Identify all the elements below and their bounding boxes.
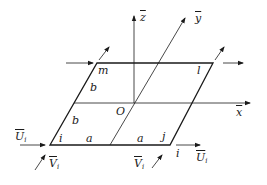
dimension-b-upper: b [90,82,97,93]
y-axis-label-text: y [195,12,201,25]
force-V-left-subscript: i [57,163,59,171]
force-U-left-symbol: U [15,130,24,143]
force-V-bottom-label: Vi [134,158,144,171]
y-axis-label: y [195,13,201,24]
origin-label: O [116,106,125,117]
node-j-label: j [162,131,165,142]
x-axis-label-text: x [236,106,242,119]
y-axis-line [110,18,185,145]
node-i-right-label: i [176,148,180,159]
force-U-right-subscript: i [205,157,207,165]
node-l-label: l [197,65,201,76]
force-U-right-label: Ui [196,152,208,165]
dimension-a-right: a [137,133,144,144]
arrow-top-right-diagonal [215,47,224,60]
arrow-V-bottom [152,155,162,168]
force-V-left-symbol: V [49,157,57,170]
dimension-b-lower: b [72,115,79,126]
dimension-a-left: a [86,133,93,144]
force-U-left-subscript: i [24,136,26,144]
force-V-bottom-subscript: i [142,163,144,171]
node-m-label: m [98,65,108,76]
force-V-bottom-symbol: V [134,157,142,170]
z-axis-label-text: z [140,11,146,24]
force-U-left-label: Ui [15,131,27,144]
z-axis-label: z [140,12,146,23]
x-axis-label: x [236,107,242,118]
node-i-label: i [59,133,63,144]
force-U-right-symbol: U [196,151,205,164]
arrow-V-left [35,155,45,170]
arrow-top-left-diagonal [99,47,109,60]
plate-element-outline [50,63,213,145]
plate-element-diagram: z y x O m l i j a a b b Ui Vi i Ui Vi [0,0,267,185]
force-V-left-label: Vi [49,158,59,171]
